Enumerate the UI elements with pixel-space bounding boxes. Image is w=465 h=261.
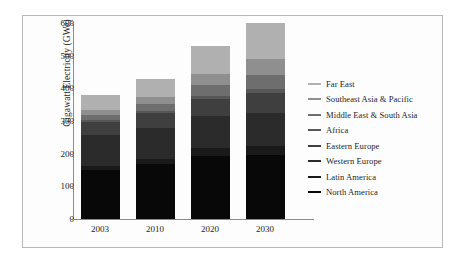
- legend-swatch-icon: [308, 145, 321, 147]
- x-tick-label: 2003: [70, 224, 130, 234]
- y-tick-mark: [70, 23, 74, 24]
- legend-item: North America: [308, 185, 440, 201]
- x-axis-line: [73, 219, 314, 220]
- bar-segment: [136, 79, 175, 97]
- bar-2010: [136, 79, 175, 219]
- legend-item: Eastern Europe: [308, 138, 440, 154]
- bar-segment: [191, 116, 230, 149]
- bar-segment: [136, 164, 175, 219]
- bar-segment: [246, 59, 285, 75]
- bar-segment: [191, 46, 230, 74]
- bar-2030: [246, 23, 285, 219]
- legend-item: Latin America: [308, 169, 440, 185]
- y-tick-mark: [70, 88, 74, 89]
- legend-label: Southeast Asia & Pacific: [326, 94, 413, 104]
- chart-frame: Gigawatt Electricity (GWe) 0100200300400…: [22, 15, 443, 248]
- y-tick-label: 400: [30, 83, 74, 93]
- legend-swatch-icon: [308, 129, 321, 131]
- x-tick-label: 2030: [235, 224, 295, 234]
- y-tick-label: 200: [30, 149, 74, 159]
- x-tick-label: 2010: [125, 224, 185, 234]
- y-tick-label: 300: [30, 116, 74, 126]
- legend-label: Latin America: [326, 172, 376, 182]
- bar-segment: [191, 156, 230, 219]
- legend-label: Middle East & South Asia: [326, 110, 417, 120]
- legend-label: Western Europe: [326, 156, 382, 166]
- y-tick-mark: [70, 186, 74, 187]
- y-tick-mark: [70, 219, 74, 220]
- bar-2003: [81, 95, 120, 219]
- legend-label: North America: [326, 187, 378, 197]
- bar-segment: [136, 128, 175, 160]
- bar-segment: [246, 75, 285, 89]
- bar-segment: [246, 146, 285, 156]
- bar-segment: [191, 74, 230, 85]
- y-tick-label: 100: [30, 181, 74, 191]
- y-tick-mark: [70, 121, 74, 122]
- bar-segment: [191, 148, 230, 155]
- bar-segment: [81, 95, 120, 110]
- legend-item: Far East: [308, 76, 440, 92]
- legend-swatch-icon: [308, 160, 321, 162]
- legend-swatch-icon: [308, 191, 321, 193]
- bar-segment: [81, 135, 120, 166]
- bar-segment: [136, 113, 175, 127]
- legend-swatch-icon: [308, 83, 321, 85]
- bar-segment: [136, 97, 175, 104]
- legend-label: Far East: [326, 79, 355, 89]
- legend-swatch-icon: [308, 114, 321, 116]
- bar-segment: [81, 170, 120, 219]
- legend-item: Southeast Asia & Pacific: [308, 92, 440, 108]
- legend-label: Africa: [326, 125, 348, 135]
- bar-segment: [191, 99, 230, 116]
- y-axis-title: Gigawatt Electricity (GWe): [62, 13, 72, 133]
- y-tick-label: 500: [30, 51, 74, 61]
- bar-2020: [191, 46, 230, 219]
- legend-swatch-icon: [308, 98, 321, 100]
- x-tick-label: 2020: [180, 224, 240, 234]
- bar-segment: [81, 122, 120, 135]
- y-tick-mark: [70, 56, 74, 57]
- bar-segment: [246, 23, 285, 59]
- y-tick-label: 0: [30, 214, 74, 224]
- y-tick-mark: [70, 154, 74, 155]
- bar-segment: [246, 155, 285, 219]
- bar-segment: [191, 85, 230, 95]
- plot-area: Gigawatt Electricity (GWe) 0100200300400…: [23, 16, 444, 249]
- legend-label: Eastern Europe: [326, 141, 379, 151]
- bar-segment: [246, 93, 285, 113]
- legend-item: Western Europe: [308, 154, 440, 170]
- legend-swatch-icon: [308, 176, 321, 178]
- legend-item: Africa: [308, 123, 440, 139]
- legend: Far EastSoutheast Asia & PacificMiddle E…: [308, 76, 440, 200]
- bar-segment: [246, 113, 285, 146]
- legend-item: Middle East & South Asia: [308, 107, 440, 123]
- y-tick-label: 600: [30, 18, 74, 28]
